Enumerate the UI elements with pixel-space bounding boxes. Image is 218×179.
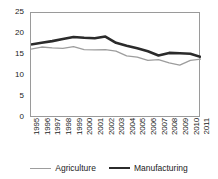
x-tick-label: 2006: [150, 118, 158, 135]
x-tick-label: 2002: [108, 118, 116, 135]
x-tick-label: 1996: [44, 118, 52, 135]
y-tick-label: 10: [15, 71, 24, 79]
x-tick-label: 2008: [171, 118, 179, 135]
legend-swatch-manufacturing-icon: [109, 167, 130, 169]
y-tick-label: 5: [20, 92, 24, 100]
y-tick-label: 20: [15, 29, 24, 37]
x-tick-label: 1997: [54, 118, 62, 135]
series-line-agriculture: [31, 47, 201, 65]
x-tick-label: 2010: [193, 118, 201, 135]
line-chart: 0510152025 19951996199719981999200020012…: [0, 0, 218, 179]
y-tick-label: 15: [15, 50, 24, 58]
x-tick-label: 2003: [118, 118, 126, 135]
plot-lines: [31, 13, 201, 118]
x-tick-label: 2005: [139, 118, 147, 135]
x-tick-label: 2004: [129, 118, 137, 135]
x-tick-label: 2011: [203, 118, 211, 134]
plot-area: [30, 12, 200, 117]
y-axis: 0510152025: [0, 12, 27, 117]
x-tick-label: 2000: [86, 118, 94, 135]
y-tick-label: 25: [15, 8, 24, 16]
legend-label-manufacturing: Manufacturing: [134, 164, 188, 173]
legend-item-manufacturing: Manufacturing: [109, 164, 188, 173]
x-tick-label: 2009: [182, 118, 190, 135]
x-tick-label: 2007: [161, 118, 169, 135]
y-tick-label: 0: [20, 113, 24, 121]
series-line-manufacturing: [31, 37, 201, 58]
x-tick-label: 2001: [97, 118, 105, 135]
x-tick-label: 1998: [65, 118, 73, 135]
legend-item-agriculture: Agriculture: [30, 164, 96, 173]
x-tick-label: 1999: [76, 118, 84, 135]
legend-label-agriculture: Agriculture: [55, 164, 96, 173]
chart-legend: Agriculture Manufacturing: [0, 160, 218, 176]
x-axis: 1995199619971998199920002001200220032004…: [30, 118, 200, 158]
x-tick-label: 1995: [33, 118, 41, 135]
legend-swatch-agriculture-icon: [30, 168, 51, 169]
